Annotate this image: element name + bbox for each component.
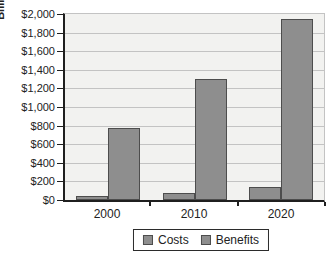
y-tick-label-400: $400 (5, 157, 55, 169)
bar-benefits-2010 (195, 79, 227, 200)
y-tick-mark (57, 107, 63, 108)
y-tick-mark (57, 14, 63, 15)
legend-item-costs: Costs (143, 234, 189, 246)
costs-benefits-bar-chart: Billions $0$200$400$600$800$1,000$1,200$… (0, 0, 332, 255)
legend-item-benefits: Benefits (201, 234, 259, 246)
bar-costs-2020 (249, 187, 281, 200)
y-tick-mark (57, 51, 63, 52)
benefits-swatch-icon (201, 235, 211, 245)
costs-swatch-icon (143, 235, 153, 245)
y-tick-label-1800: $1,800 (5, 27, 55, 39)
y-tick-mark (57, 163, 63, 164)
x-tick-mark (149, 202, 151, 206)
bar-benefits-2020 (281, 19, 313, 200)
y-tick-label-1000: $1,000 (5, 101, 55, 113)
x-tick-mark (324, 202, 326, 206)
y-tick-mark (57, 181, 63, 182)
y-tick-label-2000: $2,000 (5, 8, 55, 20)
y-tick-mark (57, 200, 63, 201)
plot-area (63, 13, 325, 202)
y-tick-label-1200: $1,200 (5, 82, 55, 94)
y-tick-label-0: $0 (5, 194, 55, 206)
y-tick-label-600: $600 (5, 138, 55, 150)
y-tick-label-1400: $1,400 (5, 64, 55, 76)
y-tick-mark (57, 33, 63, 34)
y-tick-label-1600: $1,600 (5, 45, 55, 57)
y-tick-label-200: $200 (5, 175, 55, 187)
bar-benefits-2000 (108, 128, 140, 200)
y-tick-mark (57, 144, 63, 145)
y-tick-mark (57, 88, 63, 89)
bar-costs-2010 (163, 193, 195, 200)
legend-label: Costs (158, 234, 189, 246)
legend: CostsBenefits (133, 229, 269, 251)
y-tick-mark (57, 126, 63, 127)
x-tick-label-2010: 2010 (159, 207, 229, 221)
x-tick-label-2020: 2020 (246, 207, 316, 221)
x-tick-label-2000: 2000 (72, 207, 142, 221)
bar-costs-2000 (76, 196, 108, 200)
y-tick-label-800: $800 (5, 120, 55, 132)
legend-label: Benefits (216, 234, 259, 246)
y-tick-mark (57, 70, 63, 71)
x-tick-mark (237, 202, 239, 206)
